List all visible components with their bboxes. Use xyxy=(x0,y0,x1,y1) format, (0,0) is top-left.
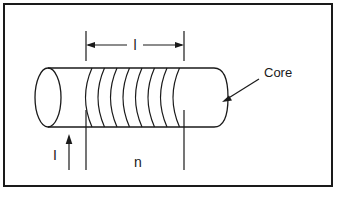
turns-label: n xyxy=(134,154,142,170)
core-label: Core xyxy=(264,65,292,80)
length-label: l xyxy=(133,37,136,53)
canvas-background xyxy=(0,0,338,201)
current-label: I xyxy=(53,147,57,163)
solenoid-diagram-canvas: l I n Core xyxy=(0,0,338,201)
solenoid-figure: l I n Core xyxy=(0,0,338,201)
